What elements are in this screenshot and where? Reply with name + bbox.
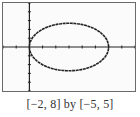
window-caption: [−2, 8] by [−5, 5] — [0, 97, 140, 112]
ellipse-plot — [3, 3, 135, 91]
graph-window — [2, 2, 136, 92]
